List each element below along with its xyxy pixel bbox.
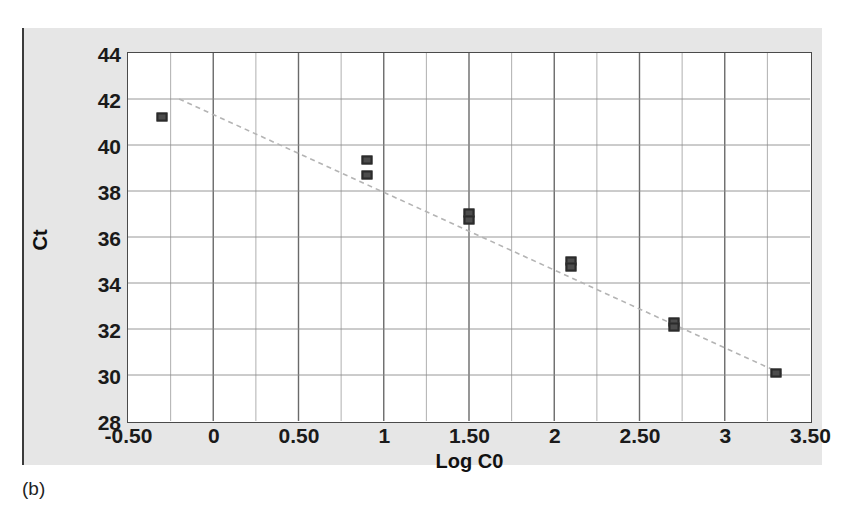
y-tick-label: 30	[77, 365, 121, 386]
y-tick-label: 36	[77, 227, 121, 248]
figure-panel-b: 283032343638404244 -0.5000.5011.5022.503…	[0, 0, 857, 532]
gridlines-and-data	[128, 53, 810, 421]
x-tick-label: 3	[719, 425, 731, 446]
y-tick-label: 40	[77, 135, 121, 156]
y-axis-ticks: 283032343638404244	[73, 52, 121, 423]
data-point-marker	[566, 262, 577, 271]
y-axis-title-wrap: Ct	[20, 200, 60, 280]
data-point-marker	[668, 322, 679, 331]
data-point-marker	[361, 155, 372, 164]
y-tick-label: 42	[77, 89, 121, 110]
plot-inner	[128, 53, 811, 422]
x-tick-label: 0	[208, 425, 220, 446]
x-tick-label: 3.50	[790, 425, 831, 446]
data-point-marker	[361, 170, 372, 179]
y-tick-label: 38	[77, 181, 121, 202]
x-tick-label: 2.50	[620, 425, 661, 446]
x-tick-label: 2	[549, 425, 561, 446]
y-tick-label: 32	[77, 319, 121, 340]
x-tick-label: 1.50	[449, 425, 490, 446]
figure-caption: (b)	[22, 478, 45, 500]
y-tick-label: 34	[77, 273, 121, 294]
data-point-marker	[464, 215, 475, 224]
data-point-marker	[157, 113, 168, 122]
plot-area	[127, 52, 812, 423]
y-axis-title: Ct	[29, 229, 52, 250]
x-tick-label: 1	[378, 425, 390, 446]
data-point-marker	[770, 368, 781, 377]
x-tick-label: 0.50	[279, 425, 320, 446]
x-axis-title: Log C0	[127, 450, 812, 473]
y-tick-label: 44	[77, 43, 121, 64]
x-tick-label: -0.50	[105, 425, 153, 446]
